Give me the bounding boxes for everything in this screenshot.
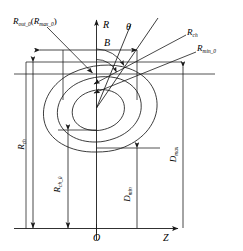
label-r-ch-top-sub: ch <box>193 32 198 38</box>
label-r-max-0-sub: max_0 <box>39 21 53 27</box>
flux-contour-outer <box>43 65 157 152</box>
label-r-min-0-base: R <box>197 43 203 53</box>
label-r-min-0-sub: min_0 <box>203 48 216 54</box>
label-r-ch-top: Rch <box>187 28 198 37</box>
reference-lines <box>14 50 215 229</box>
r-min-0-leader <box>94 52 196 93</box>
flux-contour-inner <box>72 90 124 131</box>
label-r-min-0: Rmin_0 <box>197 44 216 53</box>
label-r-out-0: Rout_0(Rmax_0) <box>13 17 57 26</box>
label-r-ch-0: Rch_0 <box>53 177 62 193</box>
label-r-axis: R <box>103 20 109 30</box>
label-r-out-0-text: R <box>13 16 19 26</box>
label-d-min-sub: min <box>126 187 132 195</box>
label-d-max-sub: max <box>173 147 179 156</box>
label-angle-b: B <box>104 38 110 48</box>
label-d-max-base: D <box>168 156 178 163</box>
figure-canvas: Rout_0(Rmax_0) R θ B Rch Rmin_0 Rch Rch_… <box>0 0 243 251</box>
label-theta: θ <box>126 22 131 32</box>
label-d-min: Dmin <box>123 187 132 202</box>
label-r-ch-left-base: R <box>16 144 26 150</box>
label-r-out-0-sub: out_0 <box>19 21 31 27</box>
label-z-axis: Z <box>163 233 169 243</box>
label-origin: O <box>93 233 100 243</box>
label-r-ch-left-sub: ch <box>20 139 26 144</box>
label-r-ch-left: Rch <box>17 139 26 150</box>
label-r-ch-0-sub: ch_0 <box>57 177 63 187</box>
b-ray <box>97 24 132 108</box>
flux-contour-middle <box>57 77 141 142</box>
label-d-min-base: D <box>122 195 132 202</box>
diagram-vector-layer <box>0 0 243 251</box>
label-d-max: Dmax <box>169 147 178 162</box>
label-r-ch-top-base: R <box>187 27 193 37</box>
label-r-ch-0-base: R <box>52 187 62 193</box>
flux-surface-contours <box>43 65 157 152</box>
